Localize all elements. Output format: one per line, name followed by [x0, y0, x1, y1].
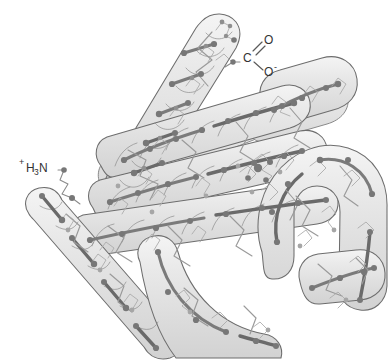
heme-atom	[254, 164, 262, 172]
c-terminus-atom	[230, 59, 235, 64]
c-terminus-oxygen-single-label: O	[264, 65, 273, 79]
carboxyl-single-bond-line	[254, 62, 263, 70]
c-terminus-carbon-label: C	[243, 51, 252, 65]
n-terminus-atom	[61, 167, 67, 173]
protein-diagram-canvas: + H 3 N C O O -	[0, 0, 388, 360]
n-terminus-charge-label: +	[19, 157, 24, 167]
protein-structure-figure: + H 3 N C O O -	[0, 0, 388, 360]
n-terminus-n-label: N	[39, 161, 48, 175]
n-terminus-atom-2	[69, 195, 75, 201]
c-terminus-charge-label: -	[274, 62, 277, 72]
c-terminus-oxygen-double-label: O	[264, 33, 273, 47]
helix-group-main	[26, 14, 387, 359]
